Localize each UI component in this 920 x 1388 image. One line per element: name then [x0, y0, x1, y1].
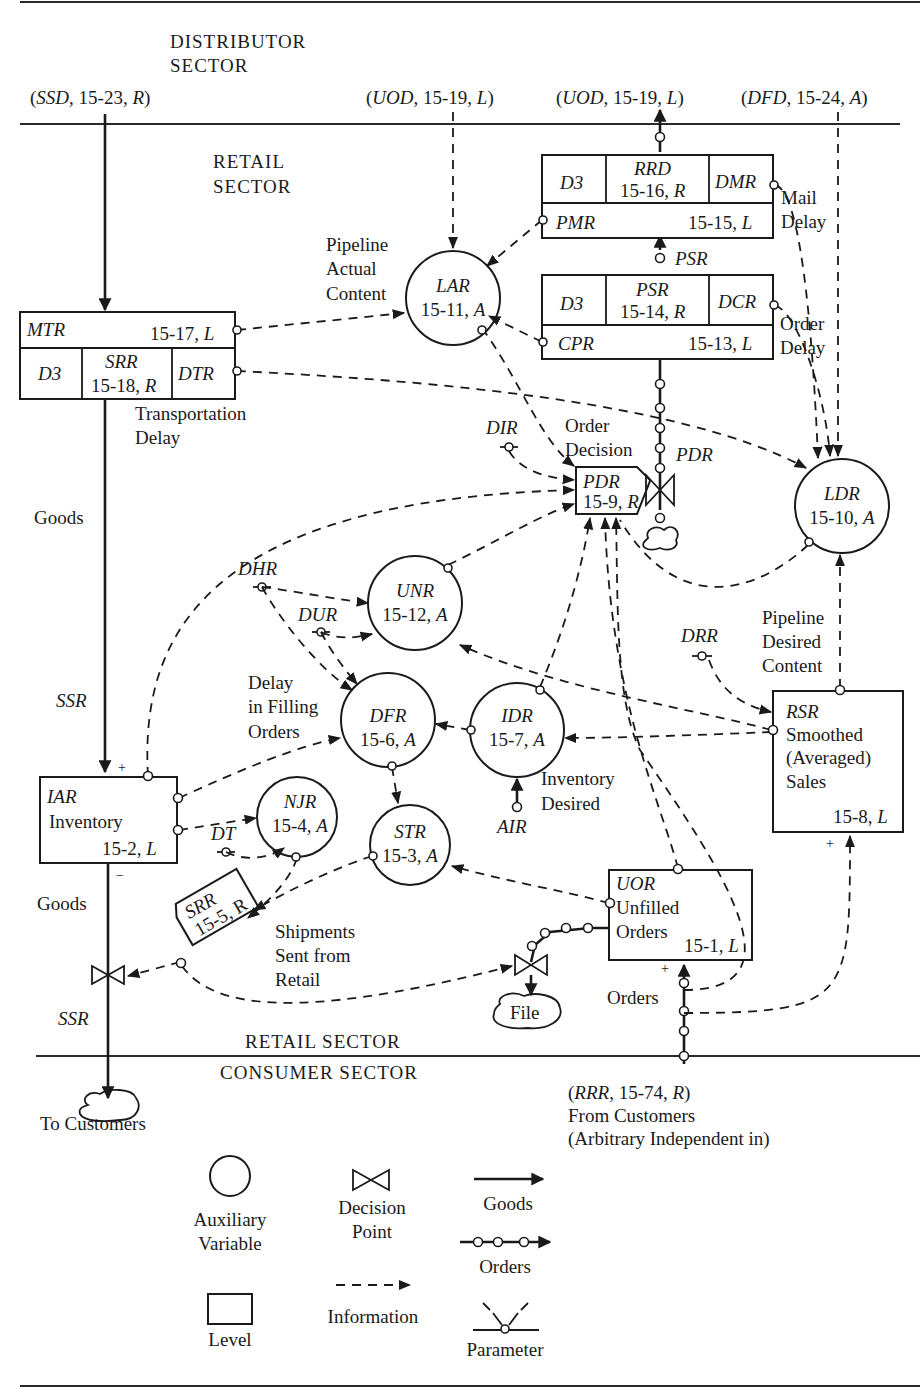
svg-text:(SSD, 15-23, R): (SSD, 15-23, R) [30, 87, 150, 109]
svg-text:Pipeline: Pipeline [326, 234, 388, 255]
svg-text:IAR: IAR [46, 786, 77, 807]
svg-text:Content: Content [326, 283, 387, 304]
svg-text:(RRR, 15-74, R): (RRR, 15-74, R) [568, 1082, 690, 1104]
retail-sector-bottom-label: RETAIL SECTOR [245, 1031, 401, 1052]
legend-orders: Orders [460, 1238, 550, 1278]
mtr-eq: 15-17, L [150, 323, 214, 344]
svg-text:D3: D3 [559, 172, 583, 193]
svg-text:AIR: AIR [495, 816, 527, 837]
aux-njr: NJR 15-4, A [257, 777, 337, 857]
svg-text:Desired: Desired [762, 631, 822, 652]
svg-text:UOR: UOR [616, 873, 655, 894]
svg-text:Shipments: Shipments [275, 921, 355, 942]
svg-text:Point: Point [352, 1221, 393, 1242]
svg-text:Inventory: Inventory [541, 768, 615, 789]
retail-sector-label-1: RETAIL [213, 151, 285, 172]
svg-text:RSR: RSR [785, 701, 819, 722]
svg-text:Orders: Orders [479, 1256, 531, 1277]
param-dt: DT [210, 823, 237, 856]
svg-text:15-15, L: 15-15, L [688, 212, 752, 233]
svg-text:IDR: IDR [500, 705, 533, 726]
svg-text:PSR: PSR [635, 279, 669, 300]
cpr-name: CPR [558, 333, 594, 354]
svg-text:LDR: LDR [823, 483, 860, 504]
svg-text:15-7, A: 15-7, A [489, 729, 545, 750]
svg-text:Delay: Delay [780, 337, 826, 358]
svg-text:STR: STR [394, 821, 426, 842]
goods-label-upper: Goods [34, 507, 84, 528]
param-dir: DIR [485, 417, 518, 451]
file-cloud-icon: File [493, 994, 560, 1029]
legend-goods: Goods [474, 1179, 543, 1214]
psr-flow-label: PSR [674, 248, 708, 269]
svg-text:LAR: LAR [435, 275, 470, 296]
svg-text:(Averaged): (Averaged) [786, 747, 871, 769]
svg-text:Actual: Actual [326, 258, 377, 279]
param-drr: DRR [680, 625, 718, 660]
svg-text:15-10, A: 15-10, A [809, 507, 875, 528]
svg-text:15-1, L: 15-1, L [684, 935, 739, 956]
svg-text:15-9, R: 15-9, R [583, 491, 639, 512]
level-iar-inventory: IAR Inventory 15-2, L [40, 777, 177, 863]
legend: Auxiliary Variable Decision Point Goods … [194, 1156, 550, 1360]
dcr-param: DCR [717, 291, 756, 312]
pdr-source-cloud-icon [643, 527, 678, 550]
ssr-label-upper: SSR [56, 690, 87, 711]
svg-text:PDR: PDR [582, 471, 620, 492]
dmr-param: DMR [714, 171, 757, 192]
svg-text:D3: D3 [559, 293, 583, 314]
delay-psr-cpr-box: D3 PSR 15-14, R DCR CPR 15-13, L [542, 275, 773, 359]
svg-text:+: + [661, 961, 669, 976]
mtr-name: MTR [26, 319, 65, 340]
ref-ssd: (SSD, 15-23, R) [30, 87, 150, 109]
svg-text:D3: D3 [37, 363, 61, 384]
delay-rrd-pmr-box: D3 RRD 15-16, R DMR PMR 15-15, L [542, 155, 773, 238]
level-uor-unfilled-orders: UOR Unfilled Orders 15-1, L [609, 870, 752, 960]
ref-dfd: (DFD, 15-24, A) [741, 87, 868, 109]
legend-decision-point: Decision Point [338, 1170, 406, 1242]
svg-text:Sent from: Sent from [275, 945, 351, 966]
svg-text:15-16, R: 15-16, R [620, 180, 686, 201]
svg-text:UNR: UNR [396, 580, 434, 601]
pdr-flow-label: PDR [675, 444, 713, 465]
ref-rrr: (RRR, 15-74, R) From Customers (Arbitrar… [568, 1082, 770, 1150]
svg-text:(Arbitrary Independent in): (Arbitrary Independent in) [568, 1128, 770, 1150]
level-rsr-smoothed-sales: RSR Smoothed (Averaged) Sales 15-8, L [773, 691, 903, 832]
svg-text:Inventory: Inventory [49, 811, 123, 832]
svg-text:15-2, L: 15-2, L [102, 838, 157, 859]
retail-sector-label-2: SECTOR [213, 176, 292, 197]
svg-text:15-8, L: 15-8, L [833, 806, 888, 827]
svg-text:(DFD, 15-24, A): (DFD, 15-24, A) [741, 87, 868, 109]
svg-text:Variable: Variable [198, 1233, 261, 1254]
ref-uod-out: (UOD, 15-19, L) [556, 87, 684, 109]
aux-str: STR 15-3, A [370, 805, 450, 885]
distributor-sector-label-1: DISTRIBUTOR [170, 31, 306, 52]
svg-text:−: − [116, 868, 124, 883]
svg-text:15-4, A: 15-4, A [272, 815, 328, 836]
svg-text:15-12, A: 15-12, A [382, 604, 448, 625]
svg-text:(UOD, 15-19, L): (UOD, 15-19, L) [366, 87, 494, 109]
svg-text:Decision: Decision [338, 1197, 406, 1218]
svg-text:From Customers: From Customers [568, 1105, 695, 1126]
svg-text:Retail: Retail [275, 969, 320, 990]
ref-uod-in: (UOD, 15-19, L) [366, 87, 494, 109]
svg-text:Information: Information [328, 1306, 419, 1327]
svg-text:DFR: DFR [369, 705, 407, 726]
svg-text:DRR: DRR [680, 625, 718, 646]
ssr-label-lower: SSR [58, 1008, 89, 1029]
svg-text:15-3, A: 15-3, A [382, 845, 438, 866]
aux-idr: IDR 15-7, A [470, 683, 564, 777]
svg-text:Level: Level [208, 1329, 251, 1350]
svg-text:File: File [510, 1002, 540, 1023]
rate-srr-shipments: SRR 15-5, R [171, 869, 259, 945]
svg-text:+: + [826, 836, 834, 851]
svg-text:Smoothed: Smoothed [786, 724, 864, 745]
svg-text:15-11, A: 15-11, A [421, 299, 486, 320]
dtr-param: DTR [177, 363, 214, 384]
svg-text:DUR: DUR [297, 604, 337, 625]
svg-text:Order: Order [565, 415, 610, 436]
svg-text:Sales: Sales [786, 771, 826, 792]
svg-text:Orders: Orders [616, 921, 668, 942]
distributor-sector-label-2: SECTOR [170, 55, 249, 76]
legend-information: Information [328, 1285, 419, 1327]
